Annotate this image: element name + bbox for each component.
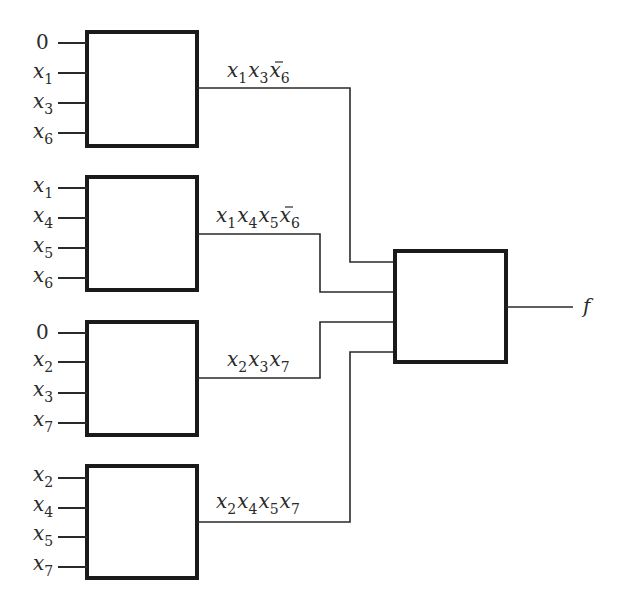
block-4-input-label-4: x7: [33, 551, 53, 579]
block-3-input-label-1: 0: [36, 320, 49, 344]
block-4-input-label-3: x5: [33, 521, 53, 549]
block-4: x2 x4 x5 x7 x2x4x5x7: [33, 462, 300, 579]
block-3-box: [87, 322, 197, 435]
block-1-input-label-3: x3: [33, 89, 53, 117]
block-2-input-label-3: x5: [33, 233, 53, 261]
final-block-box: [395, 251, 506, 362]
final-block: f: [395, 251, 594, 362]
block-4-box: [87, 466, 197, 578]
block-1-input-label-2: x1: [33, 59, 53, 87]
block-3-input-label-4: x7: [33, 407, 53, 435]
block-1-input-label-1: 0: [36, 30, 49, 54]
block-1-input-label-4: x6: [33, 119, 53, 147]
block-2: x1 x4 x5 x6 x1x4x5x6: [33, 173, 300, 291]
block-2-input-label-4: x6: [33, 263, 53, 291]
block-2-input-label-2: x4: [33, 203, 53, 231]
block-4-input-label-1: x2: [33, 462, 53, 490]
logic-network-diagram: 0 x1 x3 x6 x1x3x6 x1 x4 x5 x6 x1x4x5x6 0…: [0, 0, 622, 615]
block-3-input-label-2: x2: [33, 347, 53, 375]
block-4-input-label-2: x4: [33, 492, 53, 520]
block-3-output-label: x2x3x7: [227, 347, 290, 375]
block-1-box: [87, 32, 197, 146]
block-2-box: [87, 177, 197, 290]
final-output-label: f: [581, 294, 594, 318]
wire-block-1-to-final: [197, 88, 393, 262]
block-2-input-label-1: x1: [33, 173, 53, 201]
block-4-output-label: x2x4x5x7: [216, 489, 300, 517]
block-3-input-label-3: x3: [33, 377, 53, 405]
wire-block-2-to-final: [197, 234, 393, 292]
